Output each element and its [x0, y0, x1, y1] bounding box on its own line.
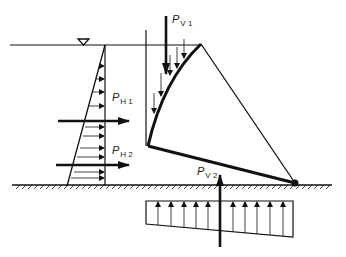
- vertical-pressure-arrows: [154, 39, 184, 113]
- water-level-triangle-icon: [78, 39, 89, 45]
- pv1-label-sub: V 1: [180, 19, 192, 28]
- ph1-label: PH 1: [112, 92, 133, 106]
- pv2-label-sub: V 2: [205, 171, 217, 180]
- ph1-label-sub: H 1: [120, 97, 132, 106]
- diagram-svg: [0, 0, 346, 257]
- ph2-label-sub: H 2: [120, 150, 132, 159]
- pv2-label-main: P: [197, 165, 204, 177]
- pv1-label: PV 1: [172, 14, 192, 28]
- ph2-label-main: P: [112, 144, 119, 156]
- ground-line: [12, 185, 332, 189]
- sector-gate-diagram: PH 1 PH 2 PV 1 PV 2: [0, 0, 346, 257]
- pv2-label: PV 2: [197, 166, 217, 180]
- ph2-label: PH 2: [112, 145, 133, 159]
- pv1-label-main: P: [172, 13, 179, 25]
- ph1-label-main: P: [112, 91, 119, 103]
